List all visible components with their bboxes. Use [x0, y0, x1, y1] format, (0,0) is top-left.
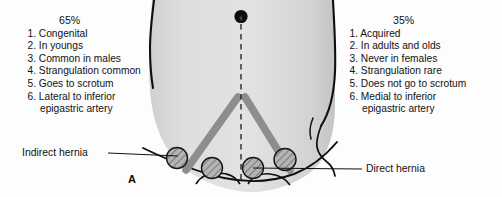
indirect-hernia-site-right — [274, 149, 296, 171]
list-text: Goes to scrotum — [39, 78, 114, 89]
list-number: 3. — [23, 53, 36, 66]
indirect-feature-list: 1. Congenital 2. In youngs 3. Common in … — [23, 28, 163, 116]
list-text: Does not go to scrotum — [361, 78, 466, 89]
list-number: 1. — [345, 28, 358, 41]
list-number: 4. — [23, 65, 36, 78]
umbilicus-highlight — [240, 16, 243, 21]
list-text: Strangulation common — [39, 65, 141, 76]
list-item: 4. Strangulation common — [23, 65, 163, 78]
list-item: 6. Medial to inferiorepigastric artery — [345, 91, 495, 116]
list-text: Never in females — [361, 53, 437, 64]
indirect-hernia-site-left — [167, 148, 188, 169]
list-text: In adults and olds — [361, 40, 441, 51]
list-number: 3. — [345, 53, 358, 66]
list-number: 1. — [23, 28, 36, 41]
list-item: 1. Acquired — [345, 28, 495, 41]
list-text: Medial to inferior — [361, 91, 436, 102]
direct-hernia-callout-label: Direct hernia — [366, 163, 425, 174]
list-number: 2. — [23, 40, 36, 53]
list-item: 2. In youngs — [23, 40, 163, 53]
indirect-hernia-callout-label: Indirect hernia — [22, 147, 88, 158]
list-text-continued: epigastric artery — [23, 103, 163, 116]
list-item: 5. Does not go to scrotum — [345, 78, 495, 91]
list-number: 2. — [345, 40, 358, 53]
list-item: 1. Congenital — [23, 28, 163, 41]
direct-hernia-features-column: 35% 1. Acquired 2. In adults and olds 3.… — [345, 14, 495, 116]
list-text: Common in males — [39, 53, 121, 64]
list-text: Congenital — [39, 28, 88, 39]
list-item: 4. Strangulation rare — [345, 65, 495, 78]
list-number: 6. — [23, 91, 36, 104]
list-item: 6. Lateral to inferiorepigastric artery — [23, 91, 163, 116]
list-text: In youngs — [39, 40, 83, 51]
list-item: 3. Never in females — [345, 53, 495, 66]
hernia-comparison-figure: 65% 1. Congenital 2. In youngs 3. Common… — [0, 0, 502, 197]
list-number: 6. — [345, 91, 358, 104]
list-text: Acquired — [360, 28, 400, 39]
list-item: 2. In adults and olds — [345, 40, 495, 53]
direct-hernia-site-left — [202, 158, 223, 179]
list-text-continued: epigastric artery — [345, 103, 495, 116]
direct-feature-list: 1. Acquired 2. In adults and olds 3. Nev… — [345, 28, 495, 116]
list-text: Strangulation rare — [361, 65, 442, 76]
list-number: 4. — [345, 65, 358, 78]
indirect-hernia-features-column: 65% 1. Congenital 2. In youngs 3. Common… — [23, 14, 163, 116]
list-item: 3. Common in males — [23, 53, 163, 66]
list-number: 5. — [23, 78, 36, 91]
direct-percentage: 35% — [345, 14, 495, 27]
indirect-percentage: 65% — [23, 14, 163, 27]
list-number: 5. — [345, 78, 358, 91]
list-text: Lateral to inferior — [39, 91, 115, 102]
panel-letter-a: A — [128, 173, 136, 185]
list-item: 5. Goes to scrotum — [23, 78, 163, 91]
